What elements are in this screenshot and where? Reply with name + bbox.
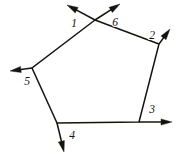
ray-5-arrowhead bbox=[10, 66, 21, 72]
ray-3-arrowhead bbox=[161, 119, 172, 125]
exterior-angle-rays bbox=[10, 4, 172, 152]
ray-2-arrowhead bbox=[161, 29, 170, 40]
ray-1-arrowhead bbox=[67, 5, 78, 13]
ray-6-arrowhead bbox=[109, 4, 120, 13]
angle-label-3: 3 bbox=[148, 103, 155, 115]
ray-2 bbox=[159, 29, 170, 44]
ray-4-arrowhead bbox=[58, 141, 64, 152]
pentagon-outline bbox=[32, 20, 159, 123]
figure-canvas: 1 2 3 4 5 6 bbox=[0, 0, 176, 160]
ray-3 bbox=[139, 119, 172, 125]
ray-4 bbox=[57, 123, 64, 152]
angle-label-6: 6 bbox=[112, 16, 118, 28]
pentagon-path bbox=[32, 20, 159, 123]
angle-label-2: 2 bbox=[149, 29, 155, 41]
ray-5 bbox=[10, 66, 32, 72]
angle-label-5: 5 bbox=[24, 75, 30, 87]
geometry-figure: 1 2 3 4 5 6 bbox=[0, 0, 176, 160]
angle-label-4: 4 bbox=[69, 129, 75, 141]
angle-label-1: 1 bbox=[71, 17, 77, 29]
